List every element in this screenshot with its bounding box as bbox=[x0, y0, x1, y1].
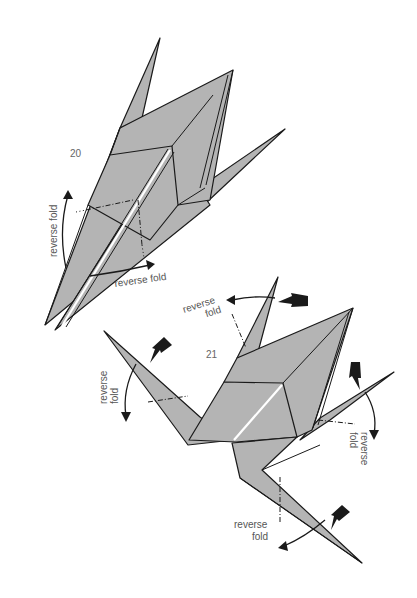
origami-diagram: 20 reverse fold reverse fold bbox=[0, 0, 417, 598]
step-21-mv-top bbox=[232, 314, 246, 348]
step-21-arrow-right bbox=[365, 392, 375, 434]
step-21-push-arrow-top bbox=[278, 293, 308, 307]
step-21-left-label-line1: reverse bbox=[98, 370, 109, 404]
step-21-tail bbox=[232, 437, 362, 563]
step-21-push-arrow-bottom bbox=[331, 505, 350, 530]
step-20-figure: 20 reverse fold reverse fold bbox=[45, 38, 285, 330]
step-21-right-label-line2: fold bbox=[348, 432, 359, 448]
step-21-push-arrow-left bbox=[150, 337, 172, 363]
step-21-number: 21 bbox=[206, 349, 218, 360]
step-21-bottom-label-line2: fold bbox=[252, 531, 268, 542]
step-20-number: 20 bbox=[70, 148, 82, 159]
step-21-figure: 21 reverse fold reverse fold reverse fol… bbox=[98, 277, 394, 563]
step-21-right-label-line1: reverse bbox=[359, 432, 370, 466]
step-21-bottom-label-line1: reverse bbox=[234, 519, 268, 530]
step-20-arrow-left bbox=[62, 195, 68, 268]
step-21-left-label-line2: fold bbox=[109, 388, 120, 404]
step-21-push-arrow-right bbox=[349, 362, 361, 390]
step-20-label-vertical: reverse fold bbox=[48, 205, 59, 257]
step-21-front-flap bbox=[189, 382, 297, 442]
